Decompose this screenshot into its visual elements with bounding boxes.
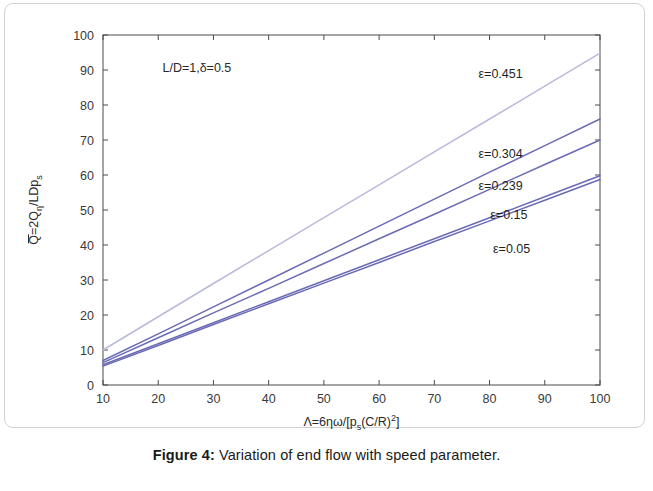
curve-0.304 — [103, 119, 600, 361]
curve-label: ε=0.05 — [493, 242, 530, 256]
x-tick-label: 10 — [96, 392, 110, 406]
plot-annotation: L/D=1,δ=0.5 — [162, 61, 231, 75]
y-tick-label: 40 — [80, 239, 94, 253]
line-chart: 1020304050607080901000102030405060708090… — [0, 0, 653, 430]
x-tick-label: 50 — [317, 392, 331, 406]
x-tick-label: 80 — [483, 392, 497, 406]
y-tick-label: 100 — [73, 29, 94, 43]
figure-page: 1020304050607080901000102030405060708090… — [0, 0, 653, 491]
x-tick-label: 70 — [427, 392, 441, 406]
y-tick-label: 10 — [80, 344, 94, 358]
x-tick-label: 60 — [372, 392, 386, 406]
x-tick-label: 90 — [538, 392, 552, 406]
y-tick-label: 70 — [80, 134, 94, 148]
y-tick-label: 30 — [80, 274, 94, 288]
y-tick-label: 0 — [87, 379, 94, 393]
y-tick-label: 50 — [80, 204, 94, 218]
y-tick-label: 20 — [80, 309, 94, 323]
x-tick-label: 100 — [590, 392, 611, 406]
curve-label: ε=0.451 — [479, 67, 523, 81]
curve-0.451 — [103, 53, 600, 350]
svg-text:Q=2Qη/LDps: Q=2Qη/LDps — [27, 175, 44, 245]
caption-number: Figure 4: — [153, 447, 215, 463]
x-tick-label: 20 — [151, 392, 165, 406]
curve-0.15 — [103, 176, 600, 365]
figure-caption: Figure 4: Variation of end flow with spe… — [0, 447, 653, 463]
caption-text: Variation of end flow with speed paramet… — [215, 447, 500, 463]
y-tick-label: 60 — [80, 169, 94, 183]
axes: 1020304050607080901000102030405060708090… — [73, 29, 610, 407]
x-axis-title: Λ=6ηω/[ps(C/R)2] — [303, 413, 399, 430]
chart-canvas: 1020304050607080901000102030405060708090… — [0, 0, 653, 430]
y-tick-label: 90 — [80, 64, 94, 78]
x-tick-label: 30 — [206, 392, 220, 406]
y-axis-title: Q=2Qη/LDps — [27, 175, 44, 245]
y-tick-label: 80 — [80, 99, 94, 113]
curve-label: ε=0.304 — [479, 147, 523, 161]
curve-label: ε=0.239 — [479, 179, 523, 193]
curve-label: ε=0.15 — [490, 208, 527, 222]
x-tick-label: 40 — [262, 392, 276, 406]
